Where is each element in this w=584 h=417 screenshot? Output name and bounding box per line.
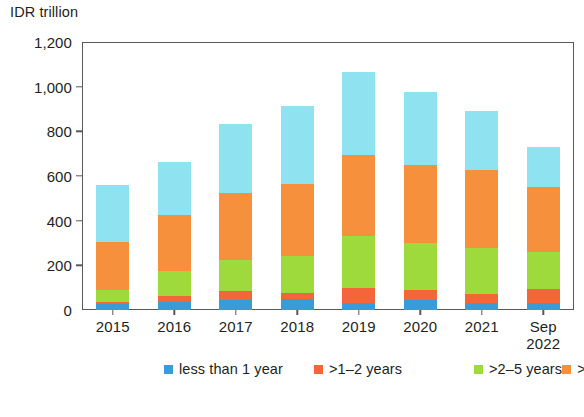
x-axis-tick-label: 2020: [390, 318, 450, 335]
x-axis-tick-label: 2018: [267, 318, 327, 335]
x-axis-tick-label: 2015: [83, 318, 143, 335]
legend-item-label: >1–2 years: [329, 361, 402, 377]
y-axis-tick-label: 1,200: [34, 34, 72, 51]
x-axis-tick: 2016: [144, 310, 204, 356]
legend-item[interactable]: >2–5 years: [474, 360, 562, 378]
x-axis-tick-label: 2017: [206, 318, 266, 335]
x-axis-tick-mark: [420, 310, 421, 315]
legend-swatch-icon: [314, 365, 323, 374]
x-axis-tick-mark: [174, 310, 175, 315]
x-axis-tick-label: 2021: [452, 318, 512, 335]
legend-item[interactable]: >1–2 years: [314, 360, 474, 378]
x-axis: 2015201620172018201920202021Sep 2022: [82, 310, 574, 356]
x-axis-tick: 2021: [452, 310, 512, 356]
x-axis-tick: 2019: [329, 310, 389, 356]
x-axis-tick-label: 2016: [144, 318, 204, 335]
x-axis-tick: 2018: [267, 310, 327, 356]
y-axis-tick-label: 800: [47, 123, 72, 140]
legend-item[interactable]: >5–10 years: [562, 360, 584, 378]
y-axis-tick-label: 600: [47, 168, 72, 185]
y-axis-tick-label: 1,000: [34, 78, 72, 95]
y-axis-tick-label: 200: [47, 257, 72, 274]
legend-item[interactable]: less than 1 year: [164, 360, 314, 378]
x-axis-tick-mark: [112, 310, 113, 315]
y-axis-tick-label: 400: [47, 212, 72, 229]
legend-swatch-icon: [474, 365, 483, 374]
y-axis-unit-label: IDR trillion: [10, 4, 78, 20]
legend-item-label: less than 1 year: [179, 361, 283, 377]
x-axis-tick-mark: [358, 310, 359, 315]
legend-swatch-icon: [562, 365, 571, 374]
x-axis-tick: Sep 2022: [513, 310, 573, 356]
x-axis-tick: 2017: [206, 310, 266, 356]
legend-item-label: >5–10 years: [577, 361, 584, 377]
x-axis-tick: 2020: [390, 310, 450, 356]
x-axis-tick-label: 2019: [329, 318, 389, 335]
x-axis-tick: 2015: [83, 310, 143, 356]
x-axis-tick-label: Sep 2022: [513, 318, 573, 352]
x-axis-tick-mark: [543, 310, 544, 315]
legend-swatch-icon: [164, 365, 173, 374]
x-axis-tick-mark: [481, 310, 482, 315]
y-axis-tick-label: 0: [64, 302, 72, 319]
plot-area: [82, 42, 574, 310]
legend-item-label: >2–5 years: [489, 361, 562, 377]
y-axis: 02004006008001,0001,200: [0, 42, 82, 310]
x-axis-tick-mark: [297, 310, 298, 315]
stacked-bar-chart: IDR trillion 02004006008001,0001,200 201…: [0, 0, 584, 417]
x-axis-tick-mark: [235, 310, 236, 315]
chart-legend: less than 1 year>1–2 years>2–5 years>5–1…: [164, 360, 494, 378]
